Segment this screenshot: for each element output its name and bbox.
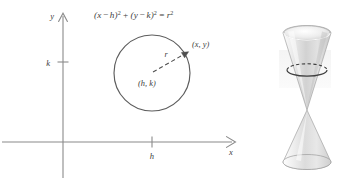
eq-exp-2: 2 [154,10,157,16]
double-cone-figure [279,26,331,170]
eq-plus: + [123,10,128,20]
eq-equals: = [159,10,164,20]
circle-shape [114,35,190,111]
coordinate-plane: (x−h)2+(y−k)2=r2 y x k h (h, k) (x, y) r [2,10,236,178]
y-tick-label-k: k [46,58,50,68]
eq-x: x [96,10,102,20]
eq-y: y [133,10,139,20]
figure-svg: (x−h)2+(y−k)2=r2 y x k h (h, k) (x, y) r [0,0,343,179]
radius-dashed-line [153,54,186,73]
circle-equation: (x−h)2+(y−k)2=r2 [94,10,173,20]
figure-container: (x−h)2+(y−k)2=r2 y x k h (h, k) (x, y) r [0,0,343,179]
cone-lower-base-ellipse [283,155,331,170]
radius-label: r [164,50,168,59]
eq-minus-1: − [103,10,108,20]
eq-exp-3: 2 [170,10,173,16]
eq-minus-2: − [140,10,145,20]
eq-exp-1: 2 [118,10,121,16]
x-axis-label: x [228,147,233,157]
radius-arrowhead [181,52,188,58]
circle-point-label: (x, y) [192,40,209,49]
circle-center-label: (h, k) [138,79,156,88]
x-tick-label-h: h [150,151,154,161]
y-axis-label: y [49,11,54,21]
